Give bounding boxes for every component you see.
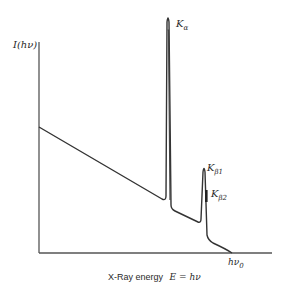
y-axis-label: I(hν) — [13, 40, 37, 50]
spectrum-curve — [39, 18, 232, 253]
k-beta1-label: Kβ1 — [207, 163, 223, 173]
k-alpha-label-subscript: α — [183, 24, 188, 32]
k-alpha-label: Kα — [176, 19, 188, 29]
cutoff-label: hν0 — [228, 258, 244, 267]
k-beta2-label: Kβ2 — [211, 189, 227, 199]
xray-spectrum-figure: I(hν) Kα Kβ1 Kβ2 hν0 X-Ray energy E = hν — [0, 0, 286, 296]
cutoff-label-subscript: 0 — [239, 262, 243, 270]
x-axis-label-formula: E = hν — [170, 272, 201, 282]
cutoff-label-main: hν — [228, 257, 239, 267]
x-axis-label-text: X-Ray energy — [108, 272, 163, 282]
k-beta1-label-subscript: β1 — [214, 168, 223, 176]
x-axis-label: X-Ray energy E = hν — [108, 273, 201, 282]
spectrum-plot — [0, 0, 286, 296]
k-beta2-label-subscript: β2 — [218, 194, 227, 202]
